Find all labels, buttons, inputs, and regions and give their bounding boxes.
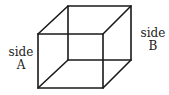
edge-top-left [38, 6, 68, 34]
edge-bottom-left [38, 60, 68, 88]
side-a-letter: A [4, 59, 38, 72]
necker-cube-figure: side A side B [0, 0, 169, 95]
edge-bottom-right [103, 60, 131, 88]
side-b-label: side B [136, 27, 169, 53]
back-face [68, 6, 131, 60]
side-b-letter: B [136, 40, 169, 53]
side-a-label: side A [4, 46, 38, 72]
edge-top-right [103, 6, 131, 34]
